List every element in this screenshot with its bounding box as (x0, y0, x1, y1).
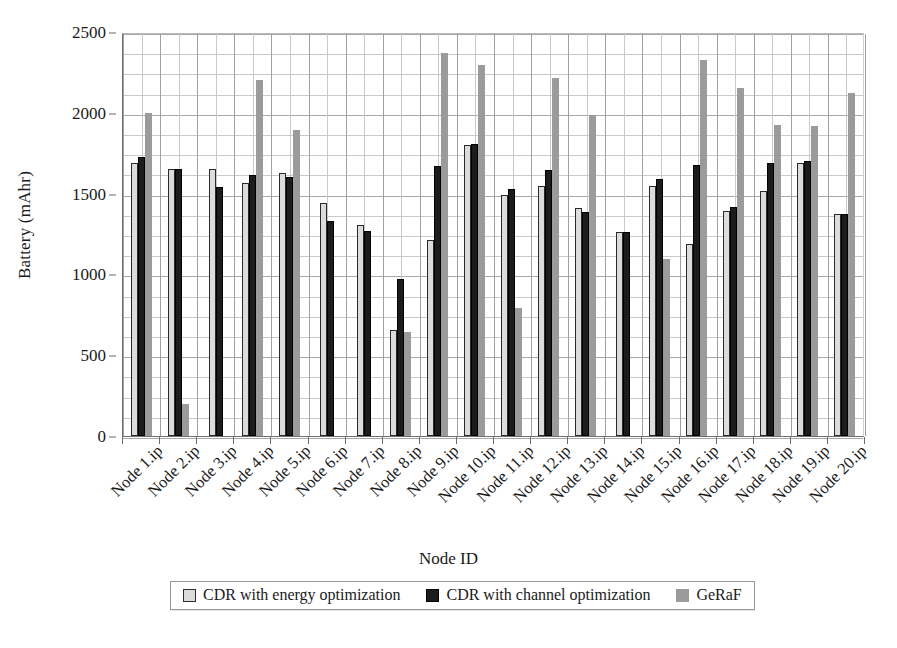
bar (327, 221, 334, 436)
bar (767, 163, 774, 436)
bar (320, 203, 327, 436)
y-tick-mark (109, 33, 116, 34)
y-tick-mark (109, 194, 116, 195)
x-axis-tick-labels: Node 1.ipNode 2.ipNode 3.ipNode 4.ipNode… (122, 441, 864, 541)
bar (545, 170, 552, 436)
bar (434, 166, 441, 436)
bar (656, 179, 663, 436)
bar (501, 195, 508, 436)
legend-label: CDR with energy optimization (203, 586, 400, 604)
bar (464, 145, 471, 436)
bar (774, 125, 781, 436)
bar (582, 212, 589, 436)
bar-group (382, 34, 419, 436)
y-tick-mark (109, 356, 116, 357)
bar-groups (123, 34, 863, 436)
bar (478, 65, 485, 436)
bar-group (493, 34, 530, 436)
black-square-icon (426, 589, 439, 602)
bar (663, 259, 670, 436)
bar-group (123, 34, 160, 436)
bar (811, 126, 818, 436)
bar-group (604, 34, 641, 436)
bar (841, 214, 848, 436)
bar-group (567, 34, 604, 436)
legend-item: CDR with channel optimization (426, 586, 650, 604)
bar (552, 78, 559, 436)
bar (286, 177, 293, 436)
bar-group (715, 34, 752, 436)
bar (441, 53, 448, 436)
bar-group (160, 34, 197, 436)
bar (737, 88, 744, 436)
bar (216, 187, 223, 436)
y-tick-label: 1000 (40, 265, 106, 285)
bar (427, 240, 434, 436)
y-tick-label: 1500 (40, 185, 106, 205)
legend-label: GeRaF (696, 586, 741, 604)
bar (804, 161, 811, 436)
y-axis-tick-labels: 05001000150020002500 (44, 33, 116, 437)
bar (575, 208, 582, 436)
bar (623, 232, 630, 436)
y-tick-label: 500 (40, 346, 106, 366)
plot-area (122, 33, 864, 437)
bar (242, 183, 249, 436)
y-tick-mark (109, 275, 116, 276)
chart-figure: Battery (mAhr) 05001000150020002500 Node… (0, 0, 897, 648)
bar (723, 211, 730, 436)
bar (404, 332, 411, 436)
bar-group (456, 34, 493, 436)
bar (693, 165, 700, 436)
bar (168, 169, 175, 436)
bar (357, 225, 364, 436)
bar (209, 169, 216, 436)
bar-group (308, 34, 345, 436)
bar (848, 93, 855, 436)
chart-legend: CDR with energy optimizationCDR with cha… (170, 581, 755, 610)
y-tick-mark (109, 113, 116, 114)
gray-square-icon (676, 589, 689, 602)
y-axis-title: Battery (mAhr) (10, 60, 40, 390)
bar-group (789, 34, 826, 436)
bar-group (530, 34, 567, 436)
bar (797, 163, 804, 436)
bar-group (345, 34, 382, 436)
legend-item: CDR with energy optimization (183, 586, 400, 604)
bar (249, 175, 256, 436)
y-tick-label: 2000 (40, 104, 106, 124)
bar (649, 186, 656, 436)
y-tick-label: 2500 (40, 23, 106, 43)
bar (760, 191, 767, 436)
bar (508, 189, 515, 436)
bar-group (197, 34, 234, 436)
bar (730, 207, 737, 436)
legend-label: CDR with channel optimization (446, 586, 650, 604)
bar-group (271, 34, 308, 436)
bar (256, 80, 263, 436)
bar (175, 169, 182, 436)
bar-group (826, 34, 863, 436)
bar (397, 279, 404, 436)
bar (182, 404, 189, 436)
y-tick-label: 0 (40, 427, 106, 447)
bar (293, 130, 300, 436)
bar (390, 330, 397, 436)
bar (364, 231, 371, 436)
x-tick-mark (864, 437, 865, 444)
light-gray-square-icon (183, 589, 196, 602)
bar (700, 60, 707, 436)
x-axis-title: Node ID (0, 549, 897, 569)
bar (145, 113, 152, 436)
bar (538, 186, 545, 436)
bar (616, 232, 623, 436)
bar (138, 157, 145, 436)
bar-group (752, 34, 789, 436)
bar (471, 144, 478, 436)
bar (515, 308, 522, 436)
y-tick-mark (109, 437, 116, 438)
bar-group (678, 34, 715, 436)
gridline-vertical (865, 34, 866, 436)
bar (279, 173, 286, 436)
bar (589, 115, 596, 436)
